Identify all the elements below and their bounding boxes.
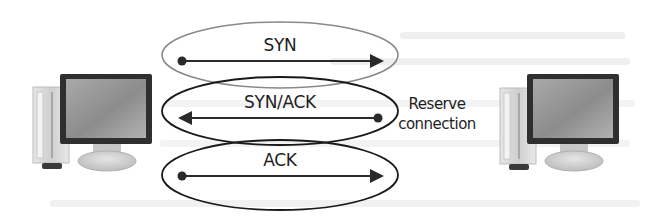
handshake-diagram: SYN SYN/ACK ACK Reserve connection [0,0,651,224]
syn-label: SYN [264,37,297,54]
monitor-icon [60,74,152,171]
syn-arrow [178,54,385,68]
monitor-icon [527,74,619,171]
ack-label: ACK [263,152,296,169]
synack-label: SYN/ACK [244,94,316,111]
annotation-line-1: Reserve [398,94,476,114]
server-computer-icon [500,74,619,171]
reserve-connection-annotation: Reserve connection [398,94,476,134]
synack-arrow [178,111,383,125]
ack-arrow [178,169,385,183]
diagram-graphics [0,0,651,224]
client-computer-icon [33,74,152,171]
syn-ellipse [162,22,398,88]
annotation-line-2: connection [398,114,476,134]
